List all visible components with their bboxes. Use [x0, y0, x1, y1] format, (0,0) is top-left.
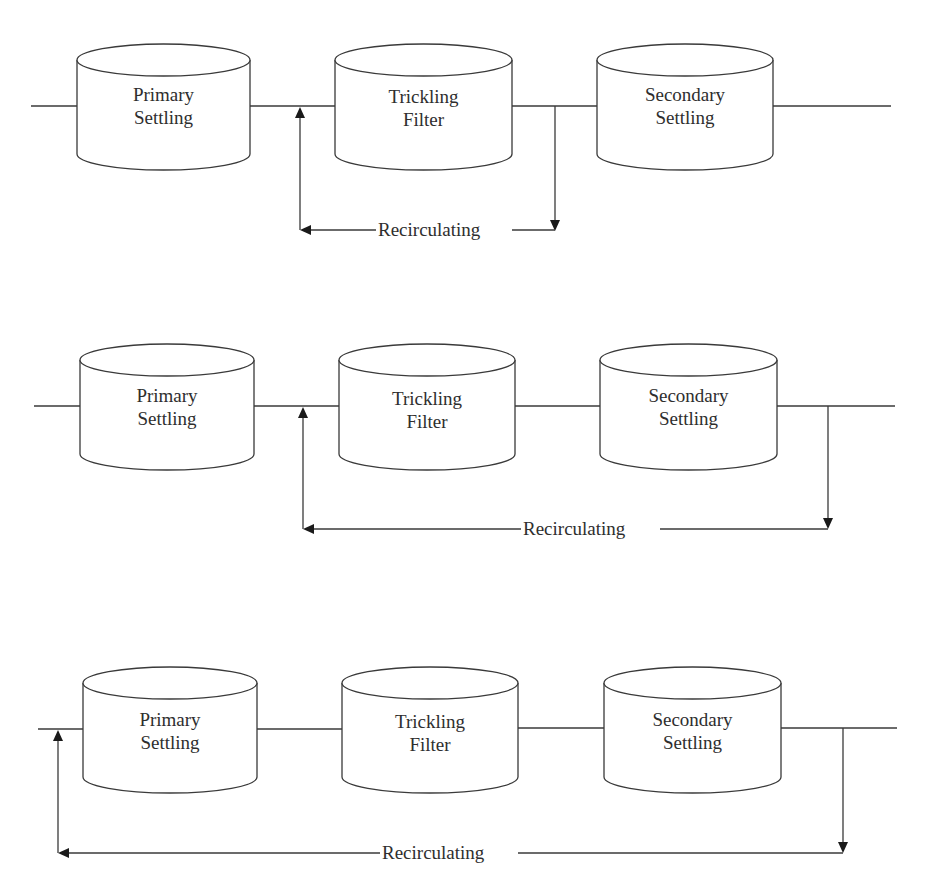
trickling-filter-label: Trickling Filter [342, 710, 518, 756]
diagram-1 [31, 44, 891, 235]
label-line-1: Trickling [339, 387, 515, 410]
label-line-1: Secondary [600, 384, 777, 407]
arrow-left-icon [303, 524, 314, 534]
label-line-2: Settling [604, 731, 781, 754]
label-line-2: Settling [597, 106, 773, 129]
recirculating-label: Recirculating [380, 842, 486, 864]
label-line-1: Trickling [335, 85, 512, 108]
label-line-1: Primary [80, 384, 254, 407]
primary-settling-label: Primary Settling [77, 83, 250, 129]
arrow-up-icon [53, 730, 63, 741]
label-line-1: Secondary [604, 708, 781, 731]
label-line-2: Filter [339, 410, 515, 433]
secondary-settling-label: Secondary Settling [600, 384, 777, 430]
secondary-settling-label: Secondary Settling [604, 708, 781, 754]
diagram-3 [38, 667, 897, 858]
label-line-2: Settling [600, 407, 777, 430]
recirculating-label: Recirculating [376, 219, 482, 241]
secondary-settling-label: Secondary Settling [597, 83, 773, 129]
label-line-1: Trickling [342, 710, 518, 733]
primary-settling-label: Primary Settling [80, 384, 254, 430]
label-line-2: Settling [77, 106, 250, 129]
trickling-filter-label: Trickling Filter [335, 85, 512, 131]
primary-settling-label: Primary Settling [83, 708, 257, 754]
label-line-2: Settling [83, 731, 257, 754]
label-line-2: Filter [342, 733, 518, 756]
label-line-2: Settling [80, 407, 254, 430]
arrow-left-icon [300, 225, 311, 235]
flow-diagrams-canvas [0, 0, 933, 895]
arrow-left-icon [58, 848, 69, 858]
label-line-1: Primary [83, 708, 257, 731]
recirculating-label: Recirculating [521, 518, 627, 540]
arrow-up-icon [298, 407, 308, 418]
diagram-2 [34, 344, 895, 534]
label-line-1: Primary [77, 83, 250, 106]
label-line-1: Secondary [597, 83, 773, 106]
arrow-down-icon [823, 518, 833, 529]
arrow-up-icon [295, 107, 305, 118]
label-line-2: Filter [335, 108, 512, 131]
arrow-down-icon [838, 842, 848, 853]
trickling-filter-label: Trickling Filter [339, 387, 515, 433]
